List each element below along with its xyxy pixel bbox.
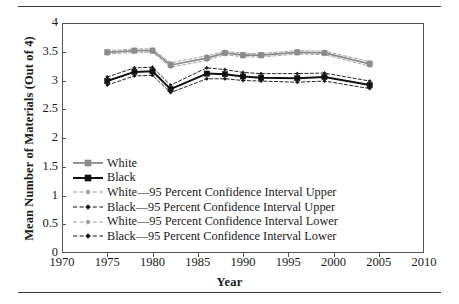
series-white <box>105 48 373 68</box>
x-tick-label: 1970 <box>39 256 85 269</box>
x-tick-mark <box>243 253 244 257</box>
x-tick-label: 1995 <box>265 256 311 269</box>
x-axis-title: Year <box>0 275 459 290</box>
legend-item-label: Black—95 Percent Confidence Interval Upp… <box>107 201 335 214</box>
legend-item-label: Black <box>107 171 136 184</box>
x-tick-mark <box>334 253 335 257</box>
x-tick-label: 1990 <box>220 256 266 269</box>
x-tick-label: 2000 <box>311 256 357 269</box>
x-tick-label: 2010 <box>401 256 447 269</box>
chart-legend: WhiteBlackWhite—95 Percent Confidence In… <box>72 156 362 244</box>
y-tick-mark <box>62 109 66 110</box>
x-tick-mark <box>379 253 380 257</box>
bottom-rule <box>18 292 441 293</box>
x-tick-label: 1985 <box>175 256 221 269</box>
x-tick-mark <box>107 253 108 257</box>
y-tick-mark <box>62 52 66 53</box>
y-tick-mark <box>62 224 66 225</box>
x-tick-label: 1975 <box>84 256 130 269</box>
top-rule <box>18 6 441 7</box>
x-tick-mark <box>288 253 289 257</box>
series-white_ci_lower <box>106 51 372 69</box>
legend-swatch-diamond-icon <box>72 216 104 228</box>
legend-item[interactable]: White <box>72 156 362 171</box>
legend-swatch-square-icon <box>72 172 104 184</box>
legend-item[interactable]: Black <box>72 171 362 186</box>
y-tick-mark <box>62 196 66 197</box>
legend-item-label: Black—95 Percent Confidence Interval Low… <box>107 230 336 243</box>
x-tick-label: 1980 <box>130 256 176 269</box>
figure-container: 00.511.522.533.54 Mean Number of Materia… <box>0 0 459 304</box>
x-tick-mark <box>198 253 199 257</box>
x-tick-label: 2005 <box>356 256 402 269</box>
legend-item[interactable]: Black—95 Percent Confidence Interval Low… <box>72 229 362 244</box>
legend-item-label: White <box>107 157 137 170</box>
legend-swatch-diamond-icon <box>72 186 104 198</box>
legend-swatch-square-icon <box>72 157 104 169</box>
legend-item[interactable]: Black—95 Percent Confidence Interval Upp… <box>72 200 362 215</box>
legend-item[interactable]: White—95 Percent Confidence Interval Low… <box>72 214 362 229</box>
legend-item-label: White—95 Percent Confidence Interval Low… <box>107 215 338 228</box>
legend-swatch-diamond-icon <box>72 201 104 213</box>
y-tick-mark <box>62 81 66 82</box>
legend-item[interactable]: White—95 Percent Confidence Interval Upp… <box>72 185 362 200</box>
y-axis-title: Mean Number of Materials (Out of 4) <box>22 24 37 254</box>
legend-item-label: White—95 Percent Confidence Interval Upp… <box>107 186 336 199</box>
y-tick-mark <box>62 167 66 168</box>
x-tick-mark <box>153 253 154 257</box>
legend-swatch-diamond-icon <box>72 230 104 242</box>
y-tick-mark <box>62 138 66 139</box>
